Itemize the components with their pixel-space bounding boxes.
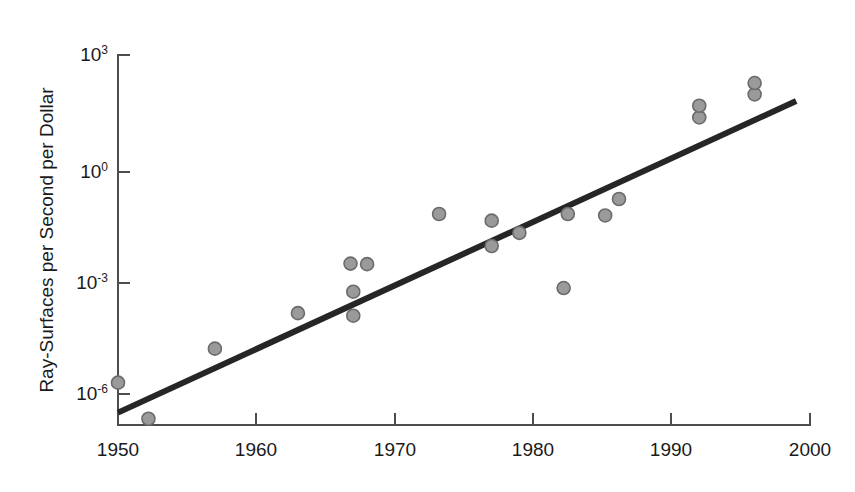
data-point xyxy=(361,258,374,271)
data-point xyxy=(208,342,221,355)
data-point xyxy=(599,209,612,222)
data-point xyxy=(347,285,360,298)
data-point xyxy=(142,412,155,425)
data-point xyxy=(291,307,304,320)
data-point xyxy=(513,226,526,239)
axis-frame xyxy=(118,55,810,425)
axes-group xyxy=(118,55,810,425)
data-point xyxy=(485,214,498,227)
data-point xyxy=(748,77,761,90)
data-point xyxy=(347,309,360,322)
data-point xyxy=(561,208,574,221)
data-point xyxy=(613,193,626,206)
plot-area xyxy=(0,0,855,492)
chart-figure: Ray-Surfaces per Second per Dollar 103 1… xyxy=(0,0,855,492)
data-point xyxy=(557,282,570,295)
trend-line xyxy=(118,101,796,413)
data-point xyxy=(693,99,706,112)
data-point xyxy=(433,208,446,221)
data-point xyxy=(344,257,357,270)
trend-line-group xyxy=(118,101,796,413)
data-point xyxy=(485,239,498,252)
data-point xyxy=(112,376,125,389)
